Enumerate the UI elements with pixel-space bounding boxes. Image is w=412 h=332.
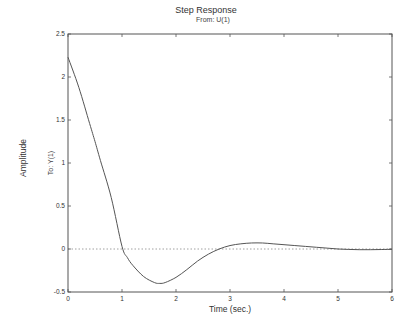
y-axis-ticks: -0.500.511.522.5 <box>54 30 392 295</box>
y-tick-label: 2.5 <box>56 30 65 37</box>
axes-box <box>68 34 392 292</box>
y-tick-label: 0 <box>61 245 65 252</box>
x-tick-label: 5 <box>336 295 340 302</box>
y-tick-label: 2 <box>61 73 65 80</box>
x-tick-label: 3 <box>228 295 232 302</box>
x-tick-label: 2 <box>174 295 178 302</box>
y-tick-label: -0.5 <box>54 288 66 295</box>
x-tick-label: 0 <box>66 295 70 302</box>
y-tick-label: 0.5 <box>56 202 65 209</box>
y-tick-label: 1.5 <box>56 116 65 123</box>
x-axis-ticks: 0123456 <box>66 34 394 302</box>
step-response-plot: 0123456 -0.500.511.522.5 <box>0 0 412 332</box>
x-tick-label: 6 <box>390 295 394 302</box>
x-tick-label: 4 <box>282 295 286 302</box>
y-tick-label: 1 <box>61 159 65 166</box>
x-tick-label: 1 <box>120 295 124 302</box>
response-curve <box>68 57 392 283</box>
